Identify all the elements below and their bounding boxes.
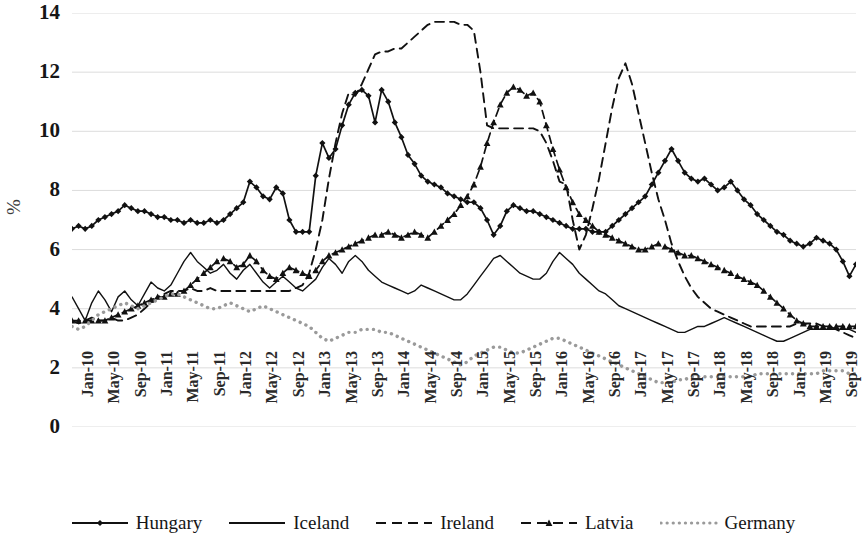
y-axis-tick-label: 10 (14, 118, 60, 143)
x-axis-tick-label: Sep-18 (764, 351, 782, 437)
data-point-marker (128, 205, 134, 211)
data-point-marker (431, 181, 437, 187)
data-point-marker (313, 173, 319, 179)
data-point-marker (174, 217, 180, 223)
data-point-marker (550, 146, 557, 152)
data-point-marker (582, 217, 589, 223)
data-point-marker (72, 226, 75, 232)
legend-item-germany[interactable]: Germany (660, 512, 796, 534)
data-point-marker (477, 163, 484, 169)
x-axis-tick-label: Jan-14 (395, 351, 413, 437)
data-point-marker (97, 520, 103, 526)
data-point-marker (695, 178, 701, 184)
data-point-marker (168, 217, 174, 223)
legend-item-latvia[interactable]: Latvia (520, 512, 634, 534)
x-axis-tick-label: May-18 (738, 351, 756, 437)
data-point-marker (655, 240, 662, 246)
data-point-marker (141, 208, 147, 214)
data-point-marker (214, 258, 221, 264)
y-axis-tick-label: 2 (14, 355, 60, 380)
x-axis-tick-label: Jan-10 (79, 351, 97, 437)
data-point-marker (563, 184, 570, 190)
data-point-marker (194, 276, 201, 282)
data-point-marker (794, 241, 800, 247)
x-axis-tick-label: Jan-18 (711, 351, 729, 437)
data-point-marker (820, 238, 826, 244)
data-point-marker (787, 311, 794, 317)
x-axis-tick-label: Sep-16 (606, 351, 624, 437)
data-point-marker (470, 181, 477, 187)
legend-item-iceland[interactable]: Iceland (228, 512, 349, 534)
data-point-marker (563, 223, 569, 229)
data-point-marker (398, 134, 404, 140)
data-point-marker (148, 211, 154, 217)
x-axis-tick-label: Jan-13 (316, 351, 334, 437)
data-point-marker (372, 119, 378, 125)
data-point-marker (161, 214, 167, 220)
data-point-marker (299, 270, 306, 276)
data-point-marker (207, 217, 213, 223)
x-axis-tick-label: May-11 (184, 351, 202, 437)
x-axis-tick-label: May-13 (343, 351, 361, 437)
data-point-marker (550, 217, 556, 223)
data-point-marker (75, 223, 81, 229)
data-point-marker (358, 237, 365, 243)
x-axis-tick-label: Sep-14 (448, 351, 466, 437)
data-point-marker (556, 166, 563, 172)
data-point-marker (543, 214, 549, 220)
data-point-marker (510, 84, 517, 90)
x-axis-tick-label: Sep-11 (211, 351, 229, 437)
data-point-marker (484, 140, 491, 146)
data-point-marker (576, 226, 582, 232)
data-point-marker (767, 293, 774, 299)
data-point-marker (385, 228, 392, 234)
legend-item-ireland[interactable]: Ireland (375, 512, 494, 534)
data-point-marker (734, 273, 741, 279)
data-point-marker (530, 208, 536, 214)
legend-label: Hungary (136, 512, 202, 534)
data-point-marker (589, 229, 595, 235)
x-axis-tick-label: Jan-17 (632, 351, 650, 437)
legend-swatch-germany (660, 516, 718, 530)
data-point-marker (556, 220, 562, 226)
data-point-marker (708, 261, 715, 267)
data-point-marker (490, 119, 497, 125)
data-point-marker (319, 140, 325, 146)
y-axis-tick-label: 4 (14, 296, 60, 321)
data-point-marker (246, 252, 253, 258)
data-point-marker (458, 196, 464, 202)
x-axis-tick-label: Sep-13 (369, 351, 387, 437)
legend-label: Ireland (440, 512, 494, 534)
x-axis-tick-label: Jan-11 (158, 351, 176, 437)
data-point-marker (214, 220, 220, 226)
data-point-marker (464, 193, 471, 199)
legend-label: Iceland (293, 512, 349, 534)
data-point-marker (411, 228, 418, 234)
x-axis-tick-label: Jan-15 (474, 351, 492, 437)
y-axis-tick-label: 0 (14, 414, 60, 439)
x-axis-tick-label: Sep-12 (290, 351, 308, 437)
legend-swatch-iceland (228, 516, 286, 530)
data-point-marker (306, 229, 312, 235)
data-point-marker (326, 252, 333, 258)
data-point-marker (576, 211, 583, 217)
x-axis-tick-label: Jan-16 (553, 351, 571, 437)
data-point-marker (299, 229, 305, 235)
data-point-marker (662, 243, 669, 249)
x-axis-tick-label: May-15 (501, 351, 519, 437)
x-axis-tick-label: Jan-12 (237, 351, 255, 437)
data-point-marker (82, 226, 88, 232)
data-point-marker (497, 101, 504, 107)
data-point-marker (517, 205, 523, 211)
x-axis-tick-label: May-17 (659, 351, 677, 437)
legend-item-hungary[interactable]: Hungary (71, 512, 202, 534)
legend-swatch-hungary (71, 516, 129, 530)
data-point-marker (102, 214, 108, 220)
data-point-marker (372, 231, 379, 237)
data-point-marker (220, 255, 227, 261)
legend-label: Germany (725, 512, 796, 534)
x-axis-tick-label: Sep-15 (527, 351, 545, 437)
y-axis-tick-label: 14 (14, 0, 60, 25)
x-axis-tick-label: Sep-10 (132, 351, 150, 437)
data-point-marker (392, 119, 398, 125)
